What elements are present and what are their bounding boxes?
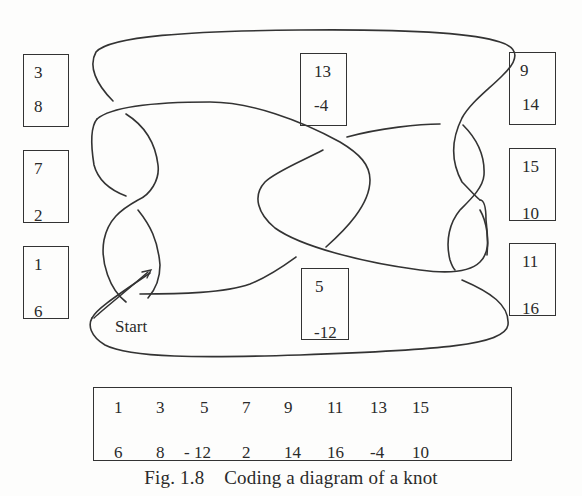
crossing-box: 72 — [23, 150, 69, 223]
knot-strand-lower-middle — [140, 257, 296, 294]
crossing-box-bottom-value: 14 — [522, 96, 539, 113]
crossing-box-top-value: 5 — [315, 278, 324, 295]
crossing-box: 1116 — [509, 243, 556, 316]
crossing-box-top-value: 13 — [314, 63, 331, 80]
crossing-box-top-value: 15 — [522, 158, 539, 175]
code-cell-bottom: 14 — [284, 444, 301, 461]
code-cell-top: 15 — [412, 399, 429, 416]
crossing-box-bottom-value: 8 — [34, 98, 43, 115]
figure-caption: Fig. 1.8 Coding a diagram of a knot — [0, 467, 582, 489]
knot-strand-upper-middle — [347, 124, 440, 137]
code-cell-top: 9 — [284, 399, 293, 416]
crossing-box: 13-4 — [300, 53, 347, 126]
crossing-box-top-value: 1 — [34, 256, 43, 273]
crossing-box: 914 — [509, 52, 556, 125]
knot-strand-left-loop-lower — [138, 210, 160, 298]
code-cell-top: 3 — [156, 399, 165, 416]
code-cell-top: 1 — [114, 399, 123, 416]
crossing-box-bottom-value: 6 — [34, 303, 43, 320]
crossing-box-top-value: 3 — [34, 64, 43, 81]
code-cell-top: 5 — [200, 399, 209, 416]
crossing-box-bottom-value: -12 — [314, 324, 337, 341]
code-cell-bottom: 10 — [412, 444, 429, 461]
crossing-box-bottom-value: 10 — [522, 205, 539, 222]
code-cell-bottom: 2 — [242, 444, 251, 461]
crossing-box-top-value: 7 — [34, 160, 43, 177]
crossing-box-bottom-value: -4 — [314, 97, 328, 114]
code-cell-top: 7 — [242, 399, 251, 416]
crossing-box-top-value: 11 — [522, 253, 538, 270]
crossing-box-bottom-value: 2 — [34, 207, 43, 224]
crossing-box-bottom-value: 16 — [522, 300, 539, 317]
code-cell-bottom: 16 — [327, 444, 344, 461]
knot-strand-start-arrow-line — [94, 272, 148, 318]
crossing-box: 5-12 — [301, 268, 349, 340]
crossing-box-top-value: 9 — [520, 62, 529, 79]
code-cell-bottom: 6 — [114, 444, 123, 461]
crossing-box: 38 — [23, 54, 69, 127]
code-cell-top: 13 — [370, 399, 387, 416]
crossing-box: 1510 — [509, 148, 556, 221]
code-cell-top: 11 — [327, 399, 343, 416]
code-cell-bottom: -4 — [370, 444, 384, 461]
code-cell-bottom: - 12 — [184, 444, 211, 461]
code-table: 13579111315 68- 1221416-410 — [93, 387, 512, 461]
crossing-box: 16 — [23, 246, 69, 319]
code-cell-bottom: 8 — [156, 444, 165, 461]
knot-strand-center-left-lobe — [258, 150, 488, 272]
knot-strand-left-loop-outer — [92, 119, 126, 196]
start-label: Start — [115, 317, 147, 337]
